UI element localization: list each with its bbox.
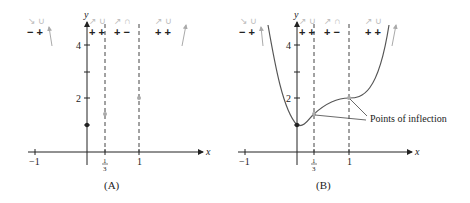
sign-group-4: + + [155, 26, 171, 38]
sign-group-3: + − [324, 26, 340, 38]
sign-group-1: − + [27, 26, 43, 38]
sign-group-4: + + [365, 26, 381, 38]
sign-group-2: + + [89, 26, 105, 38]
increasing-arrow-icon [392, 25, 396, 46]
svg-text:↘ ∪: ↘ ∪ [240, 16, 257, 26]
sign-group-2: + + [299, 26, 315, 38]
point-min [295, 123, 299, 127]
svg-text:↗ ∩: ↗ ∩ [324, 16, 341, 26]
x-axis-label: x [205, 146, 211, 157]
tick-one: 1 [347, 156, 352, 167]
svg-text:↗ ∩: ↗ ∩ [114, 16, 131, 26]
caption-a: (A) [104, 179, 120, 192]
tick-one: 1 [137, 156, 142, 167]
svg-text:↗ ∪: ↗ ∪ [365, 16, 382, 26]
inflection-annotation: Points of inflection [370, 113, 447, 124]
sign-group-3: + − [114, 26, 130, 38]
leader-line-2 [350, 99, 367, 116]
point-inflection-2 [137, 96, 141, 100]
tick-neg-one: −1 [239, 156, 250, 167]
point-inflection-1 [103, 112, 107, 116]
panel-b: x y −1 1 1 3 4 2 Points of inflection ↘ … [238, 9, 447, 192]
svg-text:↘ ∪: ↘ ∪ [28, 16, 45, 26]
increasing-arrow-icon [182, 25, 186, 46]
tick-four: 4 [76, 40, 81, 51]
tick-third-den: 3 [103, 165, 107, 173]
svg-text:↗ ∪: ↗ ∪ [155, 16, 172, 26]
x-axis-label: x [414, 146, 420, 157]
figure: x y −1 1 1 3 4 2 ↘ ∪ − + ↗ ∪ + + ↗ ∩ + −… [0, 0, 470, 203]
tick-two: 2 [286, 93, 291, 104]
svg-text:↗ ∪: ↗ ∪ [89, 16, 106, 26]
caption-b: (B) [316, 179, 331, 192]
tick-third-den: 3 [312, 165, 316, 173]
increasing-arrow-icon [261, 27, 263, 46]
sign-group-1: − + [239, 26, 255, 38]
leader-line-1 [315, 115, 366, 120]
tick-two: 2 [76, 93, 81, 104]
svg-text:↗ ∪: ↗ ∪ [299, 16, 316, 26]
point-min [85, 123, 89, 127]
panel-a: x y −1 1 1 3 4 2 ↘ ∪ − + ↗ ∪ + + ↗ ∩ + −… [27, 9, 211, 192]
increasing-arrow-icon [49, 27, 52, 46]
tick-neg-one: −1 [29, 156, 40, 167]
tick-four: 4 [286, 40, 291, 51]
